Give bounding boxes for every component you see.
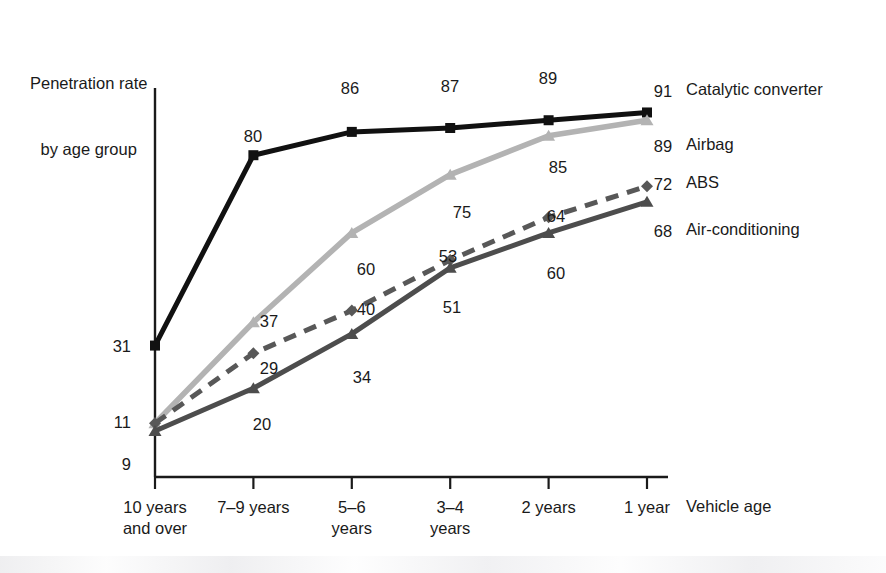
series-end-value-label: 68 — [654, 222, 672, 240]
data-point-label: 29 — [260, 359, 278, 377]
data-point-marker — [641, 180, 653, 192]
series-airbag — [149, 114, 654, 428]
chart-axes — [155, 88, 668, 489]
data-point-label: 60 — [547, 264, 565, 282]
data-point-label: 64 — [547, 207, 565, 225]
series-line — [155, 202, 647, 431]
data-point-label: 9 — [122, 455, 131, 473]
data-point-label: 53 — [439, 247, 457, 265]
series-line — [155, 120, 647, 423]
data-point-label: 85 — [549, 158, 567, 176]
series-end-value-label: 72 — [654, 175, 672, 193]
legend-item-airbag: Airbag — [686, 135, 734, 154]
legend-item-abs: ABS — [686, 173, 719, 192]
x-axis-ticks — [155, 477, 647, 489]
data-point-label: 34 — [353, 368, 371, 386]
data-point-marker — [150, 341, 160, 351]
data-point-label: 40 — [357, 300, 375, 318]
legend-item-catalytic-converter: Catalytic converter — [686, 80, 823, 99]
chart-series — [149, 107, 654, 436]
chart-page: Penetration rate by age group 3111980868… — [0, 0, 886, 573]
data-point-marker — [347, 127, 357, 137]
data-point-label: 31 — [113, 337, 131, 355]
data-point-label: 87 — [441, 77, 459, 95]
data-point-label: 60 — [357, 260, 375, 278]
legend-item-air-conditioning: Air-conditioning — [686, 220, 800, 239]
data-point-marker — [445, 123, 455, 133]
series-abs — [149, 180, 653, 429]
x-tick-label-line: and over — [95, 518, 215, 539]
data-point-marker — [544, 115, 554, 125]
data-point-label: 51 — [443, 298, 461, 316]
series-line — [155, 186, 647, 423]
chart-end-labels: 91897268 — [654, 82, 672, 240]
data-point-label: 80 — [244, 127, 262, 145]
x-tick-label-line: years — [390, 518, 510, 539]
data-point-label: 75 — [453, 203, 471, 221]
series-end-value-label: 91 — [654, 82, 672, 100]
series-end-value-label: 89 — [654, 137, 672, 155]
data-point-label: 37 — [260, 312, 278, 330]
series-air-conditioning — [149, 196, 654, 436]
data-point-marker — [248, 150, 258, 160]
series-catalytic-converter — [150, 107, 652, 350]
scan-artifact — [0, 556, 886, 573]
data-point-label: 89 — [539, 69, 557, 87]
series-line — [155, 112, 647, 345]
chart-point-labels: 3111980868789376075852940536420345160 — [113, 69, 568, 473]
data-point-label: 86 — [341, 79, 359, 97]
data-point-label: 11 — [114, 413, 131, 431]
x-axis-caption: Vehicle age — [686, 497, 771, 516]
data-point-label: 20 — [253, 415, 271, 433]
